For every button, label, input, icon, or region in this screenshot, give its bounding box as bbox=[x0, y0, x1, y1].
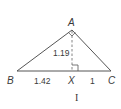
bx-length-label: 1.42 bbox=[34, 76, 51, 86]
vertex-label-x: X bbox=[67, 75, 75, 86]
right-angle-mark-x bbox=[72, 65, 78, 71]
vertex-label-b: B bbox=[7, 75, 14, 86]
xc-length-label: 1 bbox=[90, 76, 95, 86]
triangle-diagram: A B X C 1.19 1.42 1 I bbox=[0, 0, 121, 109]
figure-caption: I bbox=[75, 92, 78, 103]
altitude-length-label: 1.19 bbox=[53, 48, 70, 58]
vertex-label-a: A bbox=[67, 17, 75, 28]
vertex-label-c: C bbox=[108, 75, 116, 86]
